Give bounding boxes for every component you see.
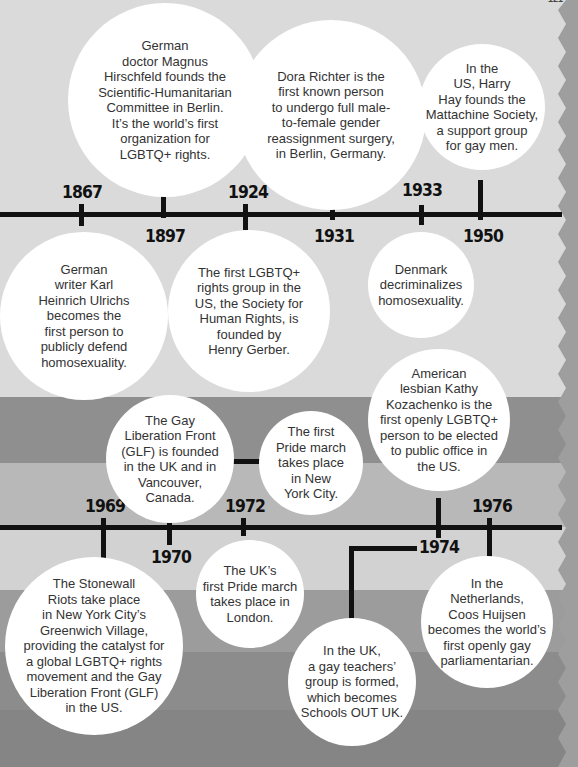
event-bubble-1867: German writer Karl Heinrich Ulrichs beco… <box>0 232 168 400</box>
event-text-1897: German doctor Magnus Hirschfeld founds t… <box>98 38 232 162</box>
event-text-1931: Dora Richter is the first known person t… <box>267 69 395 162</box>
tick-1924 <box>243 204 248 230</box>
tick-1972 <box>241 518 246 536</box>
event-text-1950: In the US, Harry Hay founds the Mattachi… <box>426 61 538 154</box>
connector-1974-vertical <box>349 546 354 622</box>
year-label-1950: 1950 <box>463 226 503 246</box>
tick-1974 <box>436 498 441 538</box>
event-text-1924: The first LGBTQ+ rights group in the US,… <box>195 265 303 358</box>
event-text-stonewall: The Stonewall Riots take place in New Yo… <box>24 576 165 716</box>
timeline-page: 121 1867 1897 1924 1931 1933 1950 German… <box>0 0 578 767</box>
event-text-london-pride: The UK’s first Pride march takes place i… <box>203 563 298 625</box>
event-bubble-glf-founded: The Gay Liberation Front (GLF) is founde… <box>106 395 234 523</box>
event-bubble-huijsen: In the Netherlands, Coos Huijsen becomes… <box>421 556 553 688</box>
event-text-first-pride-nyc: The first Pride march takes place in New… <box>276 424 346 502</box>
event-bubble-1924: The first LGBTQ+ rights group in the US,… <box>168 230 330 392</box>
year-label-1972: 1972 <box>225 496 265 516</box>
tick-1950 <box>478 180 483 220</box>
event-text-huijsen: In the Netherlands, Coos Huijsen becomes… <box>428 576 546 669</box>
event-text-kozachenko: American lesbian Kathy Kozachenko is the… <box>380 366 498 475</box>
event-bubble-stonewall: The Stonewall Riots take place in New Yo… <box>5 557 183 735</box>
year-label-1867: 1867 <box>62 182 102 202</box>
year-label-1931: 1931 <box>314 226 354 246</box>
tick-1897 <box>161 196 166 218</box>
year-label-1974: 1974 <box>419 537 459 557</box>
year-label-1970: 1970 <box>151 547 191 567</box>
year-label-1976: 1976 <box>472 496 512 516</box>
event-bubble-kozachenko: American lesbian Kathy Kozachenko is the… <box>368 349 510 491</box>
event-text-glf-founded: The Gay Liberation Front (GLF) is founde… <box>121 413 219 506</box>
year-label-1897: 1897 <box>145 226 185 246</box>
tick-1969 <box>101 518 106 562</box>
tick-1867 <box>79 204 84 226</box>
event-text-schools-out: In the UK, a gay teachers’ group is form… <box>301 643 403 721</box>
year-label-1969: 1969 <box>85 496 125 516</box>
page-number: 121 <box>548 0 563 4</box>
event-bubble-1931: Dora Richter is the first known person t… <box>236 20 426 210</box>
event-bubble-1897: German doctor Magnus Hirschfeld founds t… <box>68 3 262 197</box>
event-bubble-1950: In the US, Harry Hay founds the Mattachi… <box>419 44 545 170</box>
event-bubble-1933: Denmark decriminalizes homosexuality. <box>368 232 474 338</box>
event-text-1867: German writer Karl Heinrich Ulrichs beco… <box>38 262 129 371</box>
tick-1976 <box>487 518 492 560</box>
event-text-1933: Denmark decriminalizes homosexuality. <box>378 262 464 309</box>
connector-1974-horizontal <box>349 546 417 551</box>
event-bubble-schools-out: In the UK, a gay teachers’ group is form… <box>288 618 416 746</box>
tick-1933 <box>419 205 424 225</box>
year-label-1933: 1933 <box>402 180 442 200</box>
timeline-bottom-axis <box>0 525 562 530</box>
year-label-1924: 1924 <box>228 182 268 202</box>
torn-edge-decoration <box>558 0 578 767</box>
event-bubble-first-pride-nyc: The first Pride march takes place in New… <box>259 411 363 515</box>
event-bubble-london-pride: The UK’s first Pride march takes place i… <box>196 540 304 648</box>
